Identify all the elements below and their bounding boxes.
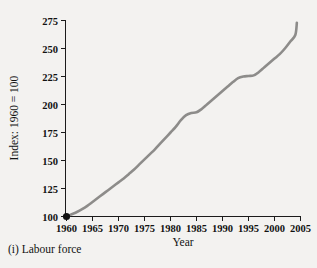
x-axis-title: Year (172, 236, 193, 248)
y-axis-title: Index: 1960 = 100 (8, 75, 20, 160)
x-tick-label: 1995 (238, 223, 259, 234)
x-tick-label: 1965 (82, 223, 103, 234)
x-tick-label: 1985 (186, 223, 207, 234)
y-tick-label: 225 (42, 72, 58, 83)
x-tick-label: 1990 (212, 223, 233, 234)
x-tick-label: 1980 (160, 223, 181, 234)
x-tick-label: 2005 (290, 223, 311, 234)
y-tick-label: 200 (42, 100, 58, 111)
series-line-labour-force (67, 23, 297, 217)
x-tick-label: 1960 (56, 223, 77, 234)
y-tick-label: 150 (42, 156, 58, 167)
x-axis-tick-labels: 1960 1965 1970 1975 1980 1985 1990 1995 … (56, 223, 311, 234)
y-tick-label: 250 (42, 44, 58, 55)
x-tick-label: 2000 (264, 223, 285, 234)
origin-point-marker (63, 213, 70, 220)
x-tick-label: 1975 (134, 223, 155, 234)
figure-caption: (i) Labour force (8, 243, 81, 255)
y-axis-tick-labels: 275 250 225 200 175 150 125 100 (42, 16, 58, 223)
y-tick-label: 100 (42, 212, 58, 223)
line-chart: Index: 1960 = 100 275 250 225 200 175 15… (0, 0, 317, 268)
y-tick-label: 175 (42, 128, 58, 139)
y-tick-label: 275 (42, 16, 58, 27)
y-tick-label: 125 (42, 184, 58, 195)
figure-labour-force: Index: 1960 = 100 275 250 225 200 175 15… (0, 0, 317, 268)
x-tick-label: 1970 (108, 223, 129, 234)
